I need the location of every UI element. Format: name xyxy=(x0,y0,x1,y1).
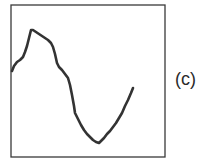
figure-label: (c) xyxy=(175,69,196,89)
waveform-curve xyxy=(12,30,133,143)
